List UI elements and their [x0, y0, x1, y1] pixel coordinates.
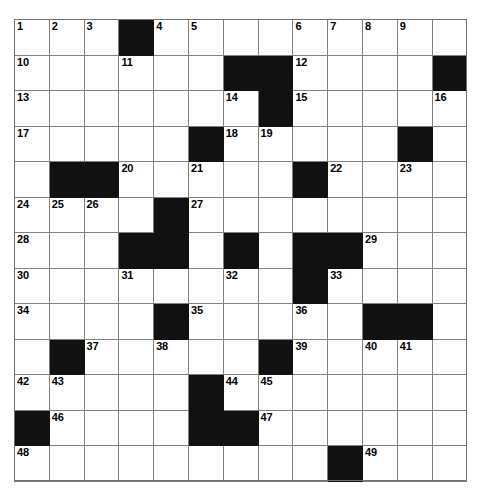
grid-cell-white[interactable]: 2 [49, 20, 84, 56]
grid-cell-white[interactable] [328, 410, 363, 446]
grid-cell-white[interactable] [328, 304, 363, 340]
grid-cell-white[interactable] [432, 233, 467, 269]
grid-cell-white[interactable] [362, 162, 397, 198]
grid-cell-white[interactable] [432, 339, 467, 375]
grid-cell-white[interactable] [188, 91, 223, 127]
grid-cell-white[interactable] [84, 446, 119, 482]
grid-cell-white[interactable] [362, 268, 397, 304]
grid-cell-white[interactable] [49, 304, 84, 340]
grid-cell-white[interactable]: 15 [293, 91, 328, 127]
grid-cell-white[interactable] [432, 375, 467, 411]
grid-cell-white[interactable] [223, 197, 258, 233]
grid-cell-white[interactable]: 39 [293, 339, 328, 375]
grid-cell-white[interactable] [397, 197, 432, 233]
grid-cell-white[interactable] [188, 55, 223, 91]
grid-cell-white[interactable] [397, 55, 432, 91]
grid-cell-white[interactable] [119, 126, 154, 162]
grid-cell-white[interactable]: 13 [15, 91, 50, 127]
grid-cell-white[interactable] [258, 233, 293, 269]
grid-cell-white[interactable] [154, 162, 189, 198]
grid-cell-white[interactable]: 3 [84, 20, 119, 56]
grid-cell-white[interactable] [188, 339, 223, 375]
grid-cell-white[interactable]: 10 [15, 55, 50, 91]
grid-cell-white[interactable] [15, 162, 50, 198]
grid-cell-white[interactable] [258, 268, 293, 304]
grid-cell-white[interactable] [362, 55, 397, 91]
grid-cell-white[interactable] [49, 268, 84, 304]
grid-cell-white[interactable] [49, 55, 84, 91]
grid-cell-white[interactable] [397, 375, 432, 411]
grid-cell-white[interactable] [293, 410, 328, 446]
grid-cell-white[interactable] [15, 339, 50, 375]
grid-cell-white[interactable] [119, 446, 154, 482]
grid-cell-white[interactable] [84, 375, 119, 411]
grid-cell-white[interactable]: 9 [397, 20, 432, 56]
grid-cell-white[interactable] [328, 91, 363, 127]
grid-cell-white[interactable]: 31 [119, 268, 154, 304]
grid-cell-white[interactable]: 43 [49, 375, 84, 411]
grid-cell-white[interactable]: 27 [188, 197, 223, 233]
grid-cell-white[interactable] [293, 375, 328, 411]
grid-cell-white[interactable]: 14 [223, 91, 258, 127]
grid-cell-white[interactable] [293, 446, 328, 482]
grid-cell-white[interactable] [154, 446, 189, 482]
grid-cell-white[interactable] [119, 339, 154, 375]
grid-cell-white[interactable]: 35 [188, 304, 223, 340]
grid-cell-white[interactable] [328, 55, 363, 91]
grid-cell-white[interactable]: 26 [84, 197, 119, 233]
grid-cell-white[interactable] [397, 446, 432, 482]
grid-cell-white[interactable] [328, 339, 363, 375]
grid-cell-white[interactable] [84, 268, 119, 304]
grid-cell-white[interactable] [258, 446, 293, 482]
grid-cell-white[interactable] [362, 197, 397, 233]
grid-cell-white[interactable]: 32 [223, 268, 258, 304]
grid-cell-white[interactable]: 25 [49, 197, 84, 233]
grid-cell-white[interactable] [84, 91, 119, 127]
grid-cell-white[interactable] [362, 126, 397, 162]
grid-cell-white[interactable]: 49 [362, 446, 397, 482]
grid-cell-white[interactable]: 48 [15, 446, 50, 482]
grid-cell-white[interactable]: 40 [362, 339, 397, 375]
grid-cell-white[interactable] [293, 126, 328, 162]
grid-cell-white[interactable] [397, 91, 432, 127]
grid-cell-white[interactable] [154, 268, 189, 304]
grid-cell-white[interactable] [84, 410, 119, 446]
grid-cell-white[interactable] [84, 304, 119, 340]
grid-cell-white[interactable] [188, 446, 223, 482]
grid-cell-white[interactable]: 45 [258, 375, 293, 411]
grid-cell-white[interactable] [84, 55, 119, 91]
grid-cell-white[interactable] [119, 304, 154, 340]
grid-cell-white[interactable] [49, 233, 84, 269]
grid-cell-white[interactable] [119, 197, 154, 233]
grid-cell-white[interactable]: 16 [432, 91, 467, 127]
grid-cell-white[interactable] [432, 197, 467, 233]
grid-cell-white[interactable]: 24 [15, 197, 50, 233]
grid-cell-white[interactable]: 21 [188, 162, 223, 198]
grid-cell-white[interactable] [293, 197, 328, 233]
grid-cell-white[interactable] [223, 446, 258, 482]
grid-cell-white[interactable] [223, 304, 258, 340]
grid-cell-white[interactable] [223, 339, 258, 375]
grid-cell-white[interactable]: 11 [119, 55, 154, 91]
grid-cell-white[interactable] [432, 126, 467, 162]
grid-cell-white[interactable] [154, 126, 189, 162]
grid-cell-white[interactable] [49, 446, 84, 482]
grid-cell-white[interactable] [119, 410, 154, 446]
grid-cell-white[interactable] [188, 233, 223, 269]
grid-cell-white[interactable] [188, 268, 223, 304]
grid-cell-white[interactable] [49, 126, 84, 162]
grid-cell-white[interactable]: 7 [328, 20, 363, 56]
grid-cell-white[interactable]: 12 [293, 55, 328, 91]
grid-cell-white[interactable] [258, 162, 293, 198]
grid-cell-white[interactable] [432, 410, 467, 446]
grid-cell-white[interactable] [328, 375, 363, 411]
grid-cell-white[interactable]: 18 [223, 126, 258, 162]
grid-cell-white[interactable] [154, 410, 189, 446]
grid-cell-white[interactable] [328, 126, 363, 162]
grid-cell-white[interactable]: 46 [49, 410, 84, 446]
grid-cell-white[interactable] [258, 304, 293, 340]
grid-cell-white[interactable]: 23 [397, 162, 432, 198]
grid-cell-white[interactable]: 30 [15, 268, 50, 304]
grid-cell-white[interactable]: 36 [293, 304, 328, 340]
grid-cell-white[interactable] [119, 91, 154, 127]
